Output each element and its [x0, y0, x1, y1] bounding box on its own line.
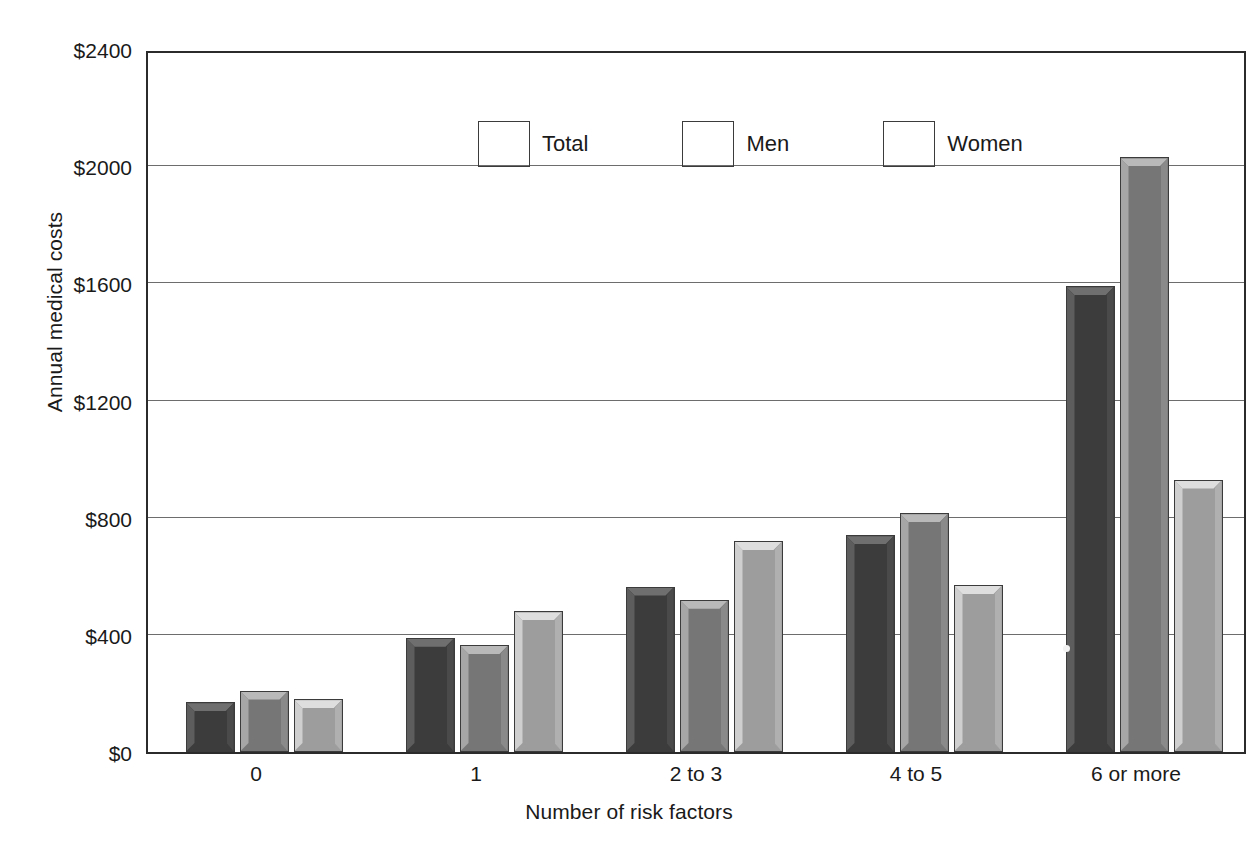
chart-legend: Total Men Women — [478, 121, 1023, 167]
y-tick-label: $0 — [0, 742, 132, 766]
bar-total-2 — [626, 587, 675, 752]
bar-total-3 — [846, 535, 895, 752]
bar-total-0 — [186, 702, 235, 752]
y-tick-label: $400 — [0, 625, 132, 649]
bar-total-4 — [1066, 286, 1115, 752]
x-tick-label: 6 or more — [1091, 762, 1181, 786]
plot-area: Total Men Women — [146, 51, 1246, 754]
y-tick-label: $800 — [0, 508, 132, 532]
y-tick-label: $1600 — [0, 273, 132, 297]
x-tick-label: 1 — [470, 762, 482, 786]
bar-men-3 — [900, 513, 949, 752]
legend-swatch-women — [883, 121, 935, 167]
legend-label-total: Total — [542, 131, 588, 157]
bar-total-1 — [406, 638, 455, 752]
gridline — [148, 282, 1244, 283]
chart-figure: Annual medical costs Number of risk fact… — [0, 0, 1258, 861]
legend-item-total: Total — [478, 121, 588, 167]
x-axis-title: Number of risk factors — [0, 800, 1258, 824]
y-tick-label: $1200 — [0, 391, 132, 415]
x-tick-label: 4 to 5 — [890, 762, 943, 786]
legend-swatch-total — [478, 121, 530, 167]
legend-item-men: Men — [682, 121, 789, 167]
legend-swatch-men — [682, 121, 734, 167]
legend-label-men: Men — [746, 131, 789, 157]
x-axis-tick-labels: 012 to 34 to 56 or more — [146, 762, 1246, 796]
x-tick-label: 0 — [250, 762, 262, 786]
bar-women-2 — [734, 541, 783, 752]
x-tick-label: 2 to 3 — [670, 762, 723, 786]
bar-women-4 — [1174, 480, 1223, 752]
scan-artifact-speck — [1063, 645, 1070, 652]
bar-women-3 — [954, 585, 1003, 752]
bar-men-0 — [240, 691, 289, 753]
legend-item-women: Women — [883, 121, 1022, 167]
bar-women-1 — [514, 611, 563, 752]
bar-men-2 — [680, 600, 729, 752]
legend-label-women: Women — [947, 131, 1022, 157]
bar-women-0 — [294, 699, 343, 752]
y-tick-label: $2000 — [0, 156, 132, 180]
bar-men-1 — [460, 645, 509, 752]
y-tick-label: $2400 — [0, 39, 132, 63]
bar-men-4 — [1120, 157, 1169, 752]
y-axis-tick-labels: $0$400$800$1200$1600$2000$2400 — [0, 51, 140, 754]
